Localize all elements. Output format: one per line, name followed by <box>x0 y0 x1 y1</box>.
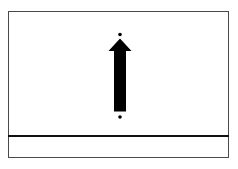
start-point-dot-icon <box>118 33 122 37</box>
arrow-up-icon <box>109 39 132 112</box>
end-point-dot-icon <box>118 115 122 119</box>
arrow-diagram <box>0 0 238 169</box>
